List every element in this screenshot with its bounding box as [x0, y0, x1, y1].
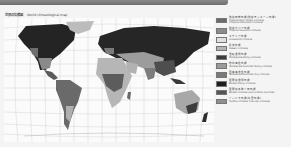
- legend-item: ステップ気候Grassland Climate: [216, 36, 290, 42]
- legend-item: 温暖湿潤気候Temperate Rainy Climate: [216, 54, 290, 60]
- page-top-bar: [0, 0, 228, 5]
- legend-swatch: [216, 90, 227, 96]
- legend-label-en: Boreal Rainy Climate: [229, 83, 255, 86]
- map-title-en: World climatological map: [27, 13, 67, 17]
- legend-label-en: Temperate Summer Rainy Climate: [229, 66, 272, 69]
- legend-label-en: Desert Climate: [229, 48, 248, 51]
- legend-swatch: [216, 18, 227, 24]
- legend-swatch: [216, 81, 227, 87]
- legend-swatch: [216, 63, 227, 69]
- legend-item: 西岸海洋性気候Temperate Summer Dry Climate: [216, 72, 290, 78]
- legend-item: 熱帯サバナ気候Tropical Savanna Climate: [216, 28, 290, 34]
- legend-item: ツンドラ気候(氷雪気候)Tundra Climate (Ice-cap Clim…: [216, 98, 290, 104]
- world-climate-map: [4, 18, 214, 142]
- map-title-jp: 世界の気候図: [5, 13, 23, 17]
- legend-label-en2: (Tropical Monsoon Climate): [229, 22, 276, 25]
- legend-swatch: [216, 99, 227, 105]
- legend-item: 地中海性気候Temperate Summer Rainy Climate: [216, 63, 290, 69]
- legend-item: 亜寒帯冬季少雨気候Boreal Climate with a Moist Sum…: [216, 89, 290, 95]
- legend-item: 亜寒帯湿潤気候Boreal Rainy Climate: [216, 80, 290, 86]
- legend-swatch: [216, 55, 227, 61]
- legend-label-en: Tropical Savanna Climate: [229, 30, 261, 33]
- map-graphic: [4, 18, 214, 142]
- legend-swatch: [216, 72, 227, 78]
- legend-item: 砂漠気候Desert Climate: [216, 45, 290, 51]
- legend-label-en: Temperate Rainy Climate: [229, 57, 260, 60]
- legend-swatch: [216, 37, 227, 43]
- legend-swatch: [216, 28, 227, 34]
- legend-item: 熱帯雨林気候(熱帯モンスーン気候)Tropical Rain Forest Cl…: [216, 17, 290, 25]
- legend-label-en: Grassland Climate: [229, 39, 252, 42]
- map-title: 世界の気候図 World climatological map: [5, 12, 67, 17]
- legend-swatch: [216, 46, 227, 52]
- legend-label-en: Boreal Climate with a Moist Summer: [229, 92, 275, 95]
- legend-label-en: Temperate Summer Dry Climate: [229, 74, 269, 77]
- legend-label-en: Tundra Climate (Ice-cap Climate): [229, 101, 270, 104]
- climate-legend: 熱帯雨林気候(熱帯モンスーン気候)Tropical Rain Forest Cl…: [216, 17, 290, 107]
